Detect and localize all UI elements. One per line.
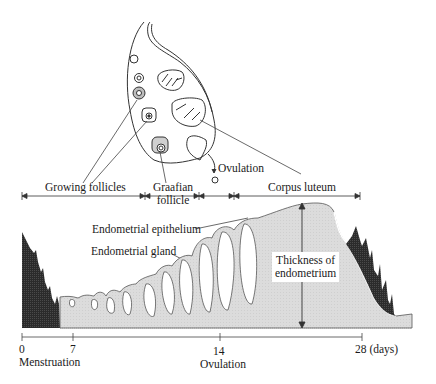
ovary-illustration [127, 22, 218, 183]
tick-label-14: 14 [213, 345, 225, 358]
endometrial-gland-label: Endometrial gland [91, 245, 176, 258]
ovulation-label-ovary: Ovulation [218, 162, 264, 175]
graafian-line1: Graafian [150, 181, 196, 194]
endometrium-profile [22, 203, 412, 328]
thickness-label: Thickness of endometrium [272, 252, 339, 282]
phase-label-graafian: Graafian follicle [150, 181, 196, 207]
endometrial-epithelium-label: Endometrial epithelium [92, 223, 201, 236]
tick-label-28: 28 (days) [355, 343, 398, 356]
ovum [212, 177, 218, 183]
graafian-line2: follicle [150, 194, 196, 207]
corpus-luteum-2 [172, 98, 205, 126]
tick-label-0: 0 [19, 343, 25, 356]
tick-label-7: 7 [70, 343, 76, 356]
follicle-small-1 [130, 55, 138, 63]
thickness-line1: Thickness of [275, 254, 336, 267]
menstruation-label: Menstruation [19, 356, 80, 369]
phase-label-growing-follicles: Growing follicles [45, 181, 126, 194]
thickness-line2: endometrium [275, 267, 336, 280]
menstrual-shedding-left [22, 232, 60, 328]
timeline-axis [22, 333, 362, 341]
ovulation-label-timeline: Ovulation [200, 358, 246, 371]
phase-label-corpus-luteum: Corpus luteum [268, 181, 336, 194]
